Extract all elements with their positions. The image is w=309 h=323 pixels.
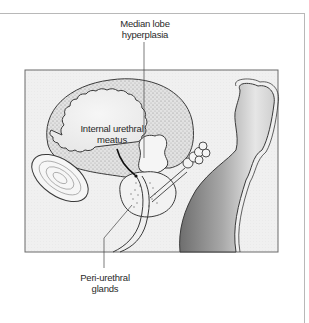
arrow-head-icon (134, 174, 137, 177)
prostate (120, 172, 176, 217)
label-median-lobe-hyperplasia: Median lobe hyperplasia (112, 18, 178, 40)
label-periurethral-glands: Peri-urethral glands (70, 272, 140, 294)
label-internal-urethral-meatus: Internal urethral meatus (76, 123, 148, 145)
